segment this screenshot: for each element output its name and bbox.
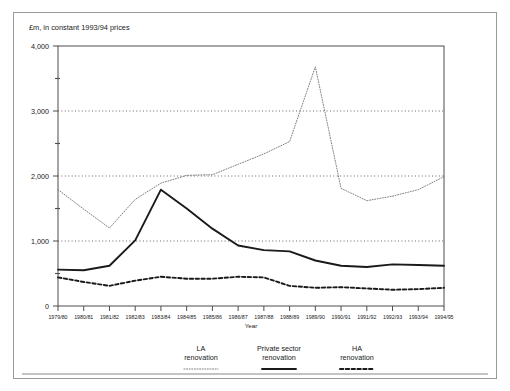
legend-label-line2: renovation bbox=[262, 353, 296, 362]
x-tick-label: 1980/81 bbox=[74, 314, 93, 320]
series-line-ha-renovation bbox=[58, 277, 444, 290]
y-tick-label-2000: 2,000 bbox=[31, 172, 49, 181]
legend-label-line1: LA bbox=[197, 344, 206, 353]
data-series bbox=[58, 67, 444, 290]
x-tick-label: 1983/84 bbox=[151, 314, 170, 320]
y-tick-label-4000: 4,000 bbox=[31, 42, 49, 51]
series-line-la-renovation bbox=[58, 67, 444, 228]
x-tick-label: 1986/87 bbox=[229, 314, 248, 320]
series-line-private-sector-renovation bbox=[58, 190, 444, 271]
x-tick-label: 1989/90 bbox=[306, 314, 325, 320]
legend-label-line1: Private sector bbox=[257, 344, 302, 353]
x-tick-label: 1988/89 bbox=[280, 314, 299, 320]
y-tick-label-3000: 3,000 bbox=[31, 107, 49, 116]
y-tick-label-1000: 1,000 bbox=[31, 237, 49, 246]
x-tick-label: 1979/80 bbox=[48, 314, 67, 320]
y-tick-label-0: 0 bbox=[45, 302, 49, 311]
chart-figure: £m, in constant 1993/94 prices 01,0002,0… bbox=[0, 0, 510, 391]
x-tick-label: 1984/85 bbox=[177, 314, 196, 320]
legend-label-line2: renovation bbox=[184, 353, 218, 362]
legend-label-line2: renovation bbox=[340, 353, 374, 362]
y-axis-ticks: 01,0002,0003,0004,000 bbox=[31, 42, 60, 311]
x-axis-ticks: 1979/801980/811981/821982/831983/841984/… bbox=[48, 306, 453, 320]
legend-label-line1: HA bbox=[352, 344, 362, 353]
x-tick-label: 1990/91 bbox=[331, 314, 350, 320]
x-tick-label: 1982/83 bbox=[126, 314, 145, 320]
x-axis-label: Year bbox=[245, 322, 258, 329]
line-chart: £m, in constant 1993/94 prices 01,0002,0… bbox=[0, 0, 510, 391]
chart-units-title: £m, in constant 1993/94 prices bbox=[29, 23, 130, 32]
x-tick-label: 1993/94 bbox=[409, 314, 428, 320]
x-tick-label: 1985/86 bbox=[203, 314, 222, 320]
x-tick-label: 1981/82 bbox=[100, 314, 119, 320]
chart-legend: LArenovationPrivate sectorrenovationHAre… bbox=[22, 344, 488, 374]
x-tick-label: 1991/92 bbox=[357, 314, 376, 320]
x-tick-label: 1994/95 bbox=[434, 314, 453, 320]
x-tick-label: 1992/93 bbox=[383, 314, 402, 320]
x-tick-label: 1987/88 bbox=[254, 314, 273, 320]
